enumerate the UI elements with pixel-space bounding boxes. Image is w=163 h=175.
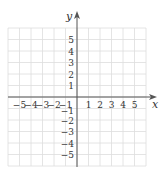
y-tick-label: −3 [61, 127, 75, 137]
y-tick-label: −2 [61, 116, 74, 126]
x-tick-label: 2 [97, 100, 103, 110]
x-tick-label: 5 [132, 100, 138, 110]
x-tick-label: 4 [120, 100, 126, 110]
y-tick-label: 5 [68, 35, 74, 45]
y-tick-label: −5 [61, 150, 75, 160]
y-tick-label: 4 [68, 47, 74, 57]
x-axis-label: x [152, 98, 159, 111]
coordinate-plane: x y −5−4−3−2−112345 54321−1−2−3−4−5 [0, 0, 163, 175]
y-tick-label: −4 [61, 139, 75, 149]
x-tick-label: 3 [109, 100, 115, 110]
y-tick-label: 3 [68, 58, 74, 68]
y-tick-label: −1 [61, 106, 74, 116]
y-axis-label: y [65, 10, 73, 23]
y-tick-label: 1 [68, 81, 74, 91]
y-tick-label: 2 [68, 70, 74, 80]
x-tick-label: 1 [86, 100, 92, 110]
